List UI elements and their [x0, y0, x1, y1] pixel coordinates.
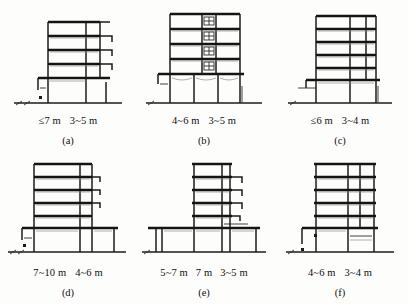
figure-panel-f: 4~6 m 3~4 m (f) [272, 152, 408, 304]
figure-panel-e: 5~7 m 7 m 3~5 m (e) [136, 152, 272, 304]
figure-panel-b: 4~6 m 3~5 m (b) [136, 0, 272, 152]
panel-caption-f: (f) [272, 287, 408, 298]
panel-caption-b: (b) [136, 135, 272, 146]
panel-b-drawing [136, 0, 272, 112]
dimension-label: 3~5 m [70, 115, 97, 126]
panel-caption-c: (c) [272, 135, 408, 146]
figure-panel-d: 7~10 m 4~6 m (d) [0, 152, 136, 304]
dimension-label: 3~5 m [209, 115, 236, 126]
panel-caption-d: (d) [0, 287, 136, 298]
panel-f-dimension-row: 4~6 m 3~4 m [272, 267, 408, 278]
figure-panel-a: ≤7 m 3~5 m (a) [0, 0, 136, 152]
dimension-label: ≤6 m [311, 115, 333, 126]
panel-c-drawing [272, 0, 408, 112]
panel-a-dimension-row: ≤7 m 3~5 m [0, 115, 136, 126]
dimension-label: 5~7 m [160, 267, 187, 278]
panel-caption-e: (e) [136, 287, 272, 298]
dimension-label: 7 m [196, 267, 212, 278]
panel-c-dimension-row: ≤6 m 3~4 m [272, 115, 408, 126]
dimension-label: 4~6 m [75, 267, 102, 278]
panel-b-dimension-row: 4~6 m 3~5 m [136, 115, 272, 126]
panel-d-drawing [0, 152, 136, 264]
panel-d-dimension-row: 7~10 m 4~6 m [0, 267, 136, 278]
dimension-label: 3~4 m [342, 115, 369, 126]
figure-panel-c: ≤6 m 3~4 m (c) [272, 0, 408, 152]
panel-f-drawing [272, 152, 408, 264]
figure-row-bottom: 7~10 m 4~6 m (d) [0, 152, 408, 304]
panel-e-dimension-row: 5~7 m 7 m 3~5 m [136, 267, 272, 278]
panel-e-drawing [136, 152, 272, 264]
dimension-label: 3~4 m [345, 267, 372, 278]
dimension-label: 4~6 m [308, 267, 335, 278]
panel-caption-a: (a) [0, 135, 136, 146]
dimension-label: 4~6 m [172, 115, 199, 126]
dimension-label: ≤7 m [39, 115, 61, 126]
figure-sheet: ≤7 m 3~5 m (a) [0, 0, 408, 304]
dimension-label: 3~5 m [220, 267, 247, 278]
panel-a-drawing [0, 0, 136, 112]
figure-row-top: ≤7 m 3~5 m (a) [0, 0, 408, 152]
dimension-label: 7~10 m [33, 267, 66, 278]
